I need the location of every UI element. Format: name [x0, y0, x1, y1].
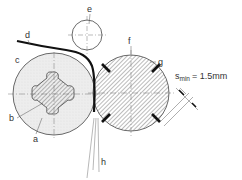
small-roll-e — [68, 16, 106, 54]
roll-forming-diagram: d e c f g b a h smin= 1.5mm — [0, 0, 242, 180]
guide-lines-h — [87, 118, 99, 178]
label-g: g — [158, 57, 163, 67]
smin-arrows — [179, 90, 196, 107]
label-b: b — [9, 113, 14, 123]
label-h: h — [101, 157, 106, 167]
label-e: e — [87, 4, 92, 14]
smin-label: smin= 1.5mm — [175, 71, 227, 82]
label-f: f — [128, 36, 131, 46]
label-a: a — [33, 134, 38, 144]
label-c: c — [15, 55, 20, 65]
label-d: d — [25, 30, 30, 40]
